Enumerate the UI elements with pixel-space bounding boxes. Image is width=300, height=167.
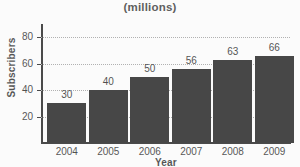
bar xyxy=(255,56,294,143)
y-tick-mark xyxy=(37,64,41,65)
x-tick-label: 2007 xyxy=(168,146,215,157)
y-tick-mark xyxy=(37,37,41,38)
y-tick-label: 60 xyxy=(7,59,33,69)
y-tick-mark xyxy=(37,117,41,118)
chart-title: (millions) xyxy=(0,1,300,13)
x-tick-label: 2004 xyxy=(43,146,90,157)
y-tick-label: 20 xyxy=(7,112,33,122)
plot-area: 20406080 304050566366 xyxy=(41,24,290,143)
y-tick-mark xyxy=(37,90,41,91)
x-tick-label: 2008 xyxy=(209,146,256,157)
bar xyxy=(172,69,211,143)
bar xyxy=(89,90,128,143)
x-tick-label: 2006 xyxy=(126,146,173,157)
gridline xyxy=(41,37,290,38)
x-tick-label: 2005 xyxy=(85,146,132,157)
y-tick-label: 80 xyxy=(7,32,33,42)
bar-value-label: 40 xyxy=(89,77,128,87)
x-tick-label: 2009 xyxy=(251,146,298,157)
x-axis-title: Year xyxy=(41,157,291,167)
bar-value-label: 63 xyxy=(213,47,252,57)
bar-value-label: 30 xyxy=(47,90,86,100)
bar-value-label: 56 xyxy=(172,56,211,66)
bar xyxy=(213,60,252,143)
bar xyxy=(130,77,169,143)
bar xyxy=(47,103,86,143)
bar-value-label: 66 xyxy=(255,43,294,53)
bar-value-label: 50 xyxy=(130,64,169,74)
chart-screenshot: (millions) Subscribers 20406080 30405056… xyxy=(0,0,300,167)
y-tick-label: 40 xyxy=(7,85,33,95)
